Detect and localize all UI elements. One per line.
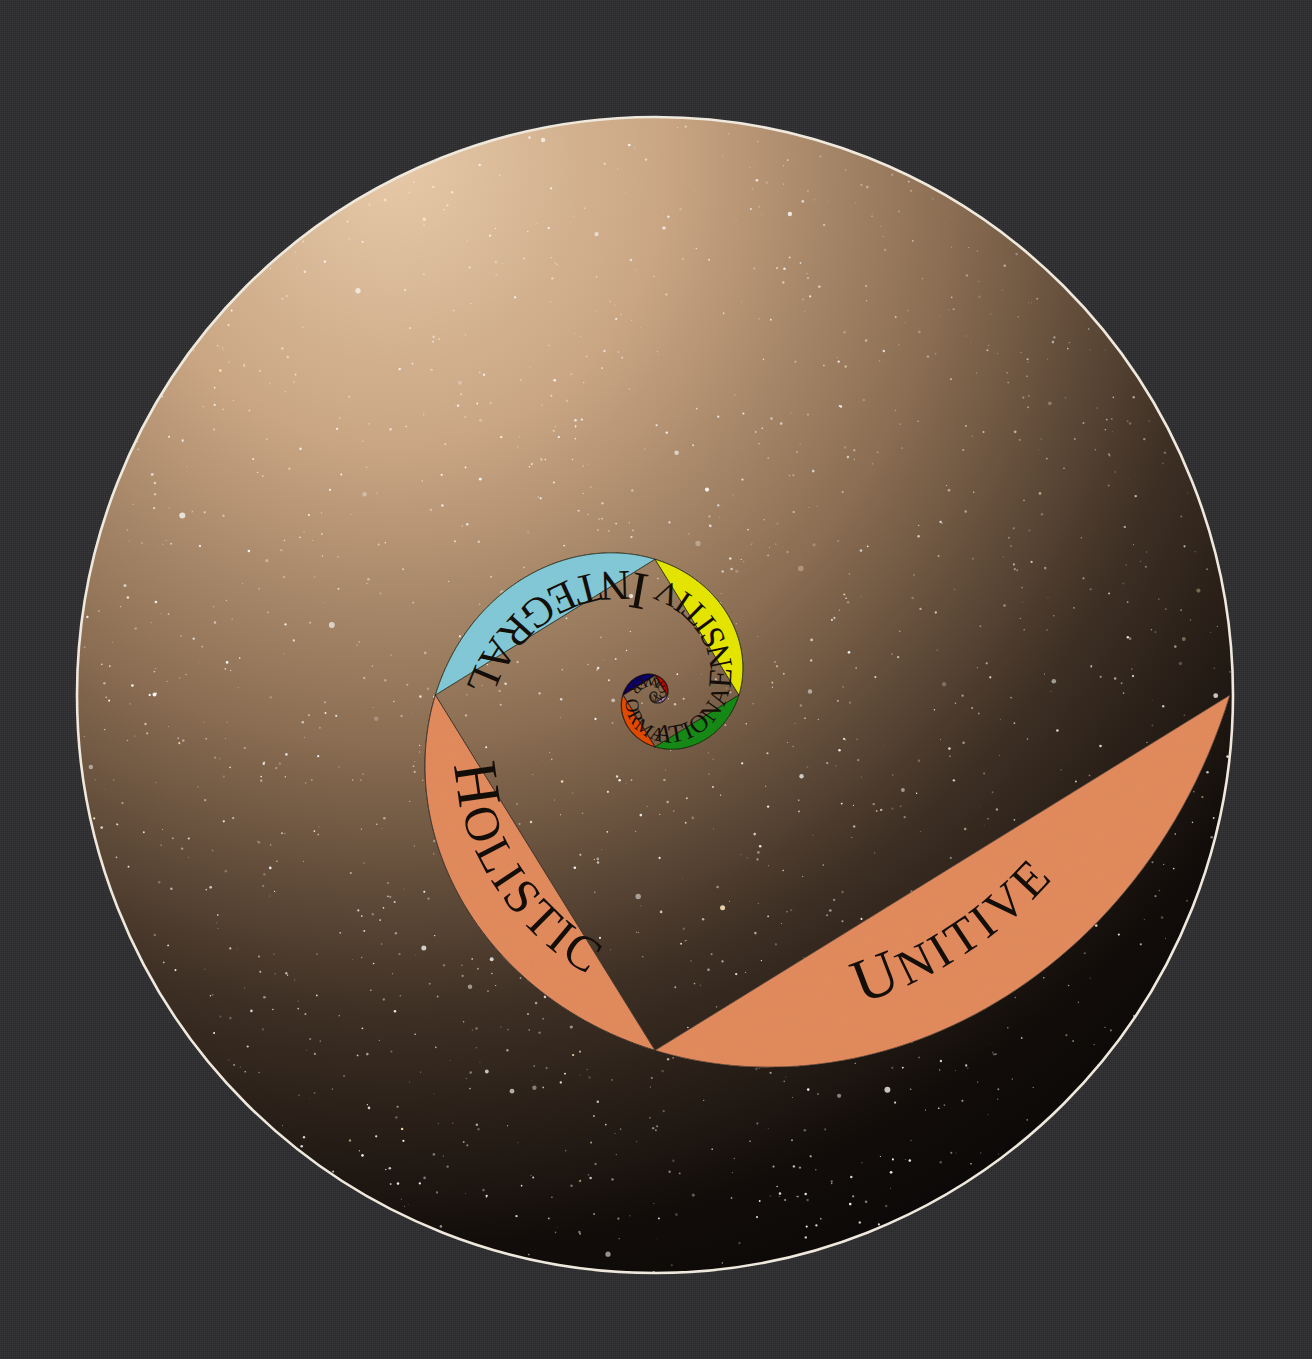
- star: [528, 1254, 530, 1256]
- star: [1173, 868, 1175, 870]
- star: [302, 326, 304, 328]
- star: [861, 1162, 862, 1163]
- star: [489, 402, 491, 404]
- star: [841, 920, 843, 922]
- star: [368, 203, 370, 205]
- star: [804, 718, 805, 719]
- star: [1082, 577, 1084, 579]
- star: [852, 1195, 854, 1197]
- star: [1044, 673, 1045, 674]
- star: [860, 184, 862, 186]
- star: [548, 345, 550, 347]
- star: [782, 870, 784, 872]
- star: [978, 281, 979, 282]
- star: [489, 235, 491, 237]
- star: [587, 1069, 588, 1070]
- star: [772, 1166, 774, 1168]
- star: [297, 1008, 299, 1010]
- star: [437, 996, 439, 998]
- star: [1069, 342, 1070, 343]
- star: [432, 186, 434, 188]
- star: [363, 930, 365, 932]
- star: [1128, 479, 1129, 480]
- star: [951, 297, 953, 299]
- star: [1206, 771, 1208, 773]
- star: [997, 353, 998, 354]
- star: [987, 818, 988, 819]
- star: [865, 339, 868, 342]
- star: [920, 831, 921, 832]
- star: [708, 752, 709, 753]
- star: [199, 545, 201, 547]
- star: [152, 473, 154, 475]
- star: [615, 523, 617, 525]
- star: [1027, 358, 1029, 360]
- star: [361, 828, 362, 829]
- star: [823, 365, 825, 367]
- star: [753, 833, 756, 836]
- star: [458, 433, 459, 434]
- star: [717, 416, 719, 418]
- star: [541, 404, 543, 406]
- star: [937, 555, 939, 557]
- star: [743, 561, 745, 563]
- star: [357, 909, 359, 911]
- star: [847, 456, 850, 459]
- star: [1004, 265, 1006, 267]
- star: [663, 1110, 665, 1112]
- star: [891, 653, 892, 654]
- star: [692, 1193, 695, 1196]
- star: [572, 459, 574, 461]
- star: [335, 715, 337, 717]
- star: [813, 543, 816, 546]
- star: [668, 698, 669, 699]
- star: [657, 351, 658, 352]
- star: [600, 636, 602, 638]
- star: [586, 355, 588, 357]
- star: [812, 470, 815, 473]
- star: [1026, 375, 1028, 377]
- star: [472, 1029, 473, 1030]
- star: [755, 1067, 758, 1070]
- star: [582, 493, 583, 494]
- star: [573, 216, 575, 218]
- star: [179, 677, 180, 678]
- star: [826, 762, 828, 764]
- star: [620, 1128, 622, 1130]
- star: [557, 1227, 558, 1228]
- star: [381, 943, 383, 945]
- star: [855, 203, 856, 204]
- artwork-canvas: INSTINCTIVEMAGICALPOWERFULCONFORMATIVERA…: [0, 0, 1312, 1359]
- star: [548, 227, 550, 229]
- star: [303, 1136, 305, 1138]
- star: [287, 975, 288, 976]
- star: [560, 1081, 562, 1083]
- star: [123, 584, 126, 587]
- star: [355, 288, 360, 293]
- star: [841, 891, 844, 894]
- star: [397, 1106, 399, 1108]
- star: [275, 767, 277, 769]
- star: [765, 786, 766, 787]
- star: [1090, 667, 1092, 669]
- star: [423, 218, 427, 222]
- star: [823, 864, 825, 866]
- star: [939, 1069, 940, 1070]
- star: [829, 909, 832, 912]
- star: [612, 722, 614, 724]
- star: [153, 693, 157, 697]
- star: [918, 1056, 920, 1058]
- star: [487, 990, 489, 992]
- star: [248, 550, 251, 553]
- star: [961, 1100, 963, 1102]
- star: [789, 475, 790, 476]
- star: [1154, 631, 1156, 633]
- star: [201, 646, 203, 648]
- star: [269, 696, 272, 699]
- star: [390, 1183, 392, 1185]
- star: [521, 1185, 523, 1187]
- star: [880, 226, 881, 227]
- star: [597, 861, 600, 864]
- star: [495, 261, 498, 264]
- star: [532, 774, 533, 775]
